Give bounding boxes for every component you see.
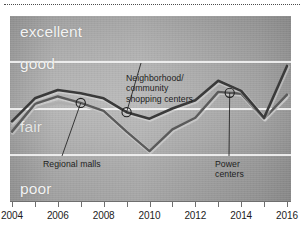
x-tick-label-2014: 2014	[230, 210, 252, 221]
leader-line-regional	[62, 103, 81, 156]
x-tick-2005	[35, 202, 36, 207]
annotation-neighborhood-line1: Neighborhood/	[126, 73, 193, 83]
annotation-neighborhood-line3: shopping centers	[126, 94, 193, 104]
plot-area: excellent good fair poor Neighborhood/ c…	[10, 16, 291, 201]
x-tick-2014	[241, 202, 242, 207]
annotation-regional-line1: Regional malls	[43, 159, 101, 169]
annotation-power-line1: Power	[215, 159, 244, 169]
annotation-neighborhood-line2: community	[126, 83, 193, 93]
annotation-power-line2: centers	[215, 169, 244, 179]
x-tick-label-2006: 2006	[47, 210, 69, 221]
annotation-neighborhood-community: Neighborhood/ community shopping centers	[126, 73, 193, 104]
annotation-leaders-layer	[10, 16, 291, 201]
x-axis-line	[10, 201, 291, 202]
x-tick-2006	[58, 202, 59, 207]
x-tick-2007	[81, 202, 82, 207]
x-tick-2016	[287, 202, 288, 207]
x-tick-label-2016: 2016	[276, 210, 298, 221]
x-tick-label-2004: 2004	[1, 210, 23, 221]
x-tick-label-2010: 2010	[139, 210, 161, 221]
x-tick-label-2012: 2012	[184, 210, 206, 221]
leader-line-power	[229, 93, 230, 156]
annotation-power-centers: Power centers	[215, 159, 244, 180]
x-tick-2012	[195, 202, 196, 207]
x-tick-2011	[172, 202, 173, 207]
x-tick-2015	[264, 202, 265, 207]
x-tick-2013	[218, 202, 219, 207]
market-condition-line-chart: excellent good fair poor Neighborhood/ c…	[0, 0, 303, 233]
x-tick-2009	[127, 202, 128, 207]
annotation-regional-malls: Regional malls	[43, 159, 101, 169]
x-tick-2010	[150, 202, 151, 207]
x-tick-label-2008: 2008	[93, 210, 115, 221]
x-tick-2008	[104, 202, 105, 207]
x-tick-2004	[12, 202, 13, 207]
